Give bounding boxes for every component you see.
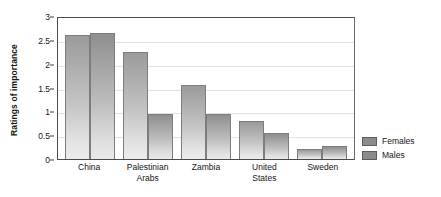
y-axis-tick-mark bbox=[50, 160, 54, 161]
y-axis-tick-mark bbox=[50, 17, 54, 18]
legend-item-females: Females bbox=[362, 136, 415, 146]
bar-males-china bbox=[90, 33, 115, 159]
x-axis-label-china: China bbox=[61, 162, 117, 194]
bar-groups bbox=[58, 18, 354, 159]
x-axis-label-line: China bbox=[61, 162, 117, 173]
y-axis-tick-mark bbox=[50, 88, 54, 89]
plot-area bbox=[57, 17, 355, 160]
bar-group bbox=[65, 18, 115, 159]
x-axis-category-labels: ChinaPalestinianArabsZambiaUnitedStatesS… bbox=[57, 162, 355, 194]
x-axis-label-line: Palestinian bbox=[120, 162, 176, 173]
bar-males-sweden bbox=[322, 146, 347, 159]
bar-males-zambia bbox=[206, 114, 231, 159]
legend-swatch-males bbox=[362, 151, 377, 160]
bar-females-palestinian-arabs bbox=[123, 52, 148, 159]
bar-females-china bbox=[65, 35, 90, 159]
legend-item-males: Males bbox=[362, 150, 415, 160]
legend-label: Males bbox=[382, 150, 405, 160]
y-axis-tick-mark bbox=[50, 40, 54, 41]
bar-females-united-states bbox=[239, 121, 264, 159]
x-axis-label-zambia: Zambia bbox=[178, 162, 234, 194]
x-axis-label-line: Arabs bbox=[120, 173, 176, 184]
bar-females-zambia bbox=[181, 85, 206, 159]
legend-swatch-females bbox=[362, 137, 377, 146]
y-axis-tick-label: 0.5 bbox=[38, 131, 50, 141]
y-axis-tick-labels: 00.511.522.53 bbox=[26, 17, 54, 160]
y-axis-title-text: Ratings of importance bbox=[9, 44, 19, 136]
y-axis-title: Ratings of importance bbox=[4, 20, 24, 160]
x-axis-label-united-states: UnitedStates bbox=[236, 162, 292, 194]
y-axis-tick-label: 2.5 bbox=[38, 36, 50, 46]
bar-males-united-states bbox=[264, 133, 289, 159]
x-axis-label-palestinian-arabs: PalestinianArabs bbox=[120, 162, 176, 194]
x-axis-label-line: Sweden bbox=[295, 162, 351, 173]
bar-group bbox=[297, 18, 347, 159]
bar-group bbox=[239, 18, 289, 159]
bar-group bbox=[123, 18, 173, 159]
x-axis-label-line: Zambia bbox=[178, 162, 234, 173]
y-axis-tick-label: 1.5 bbox=[38, 84, 50, 94]
bar-females-sweden bbox=[297, 149, 322, 159]
bar-males-palestinian-arabs bbox=[148, 114, 173, 159]
y-axis-tick-mark bbox=[50, 112, 54, 113]
bar-group bbox=[181, 18, 231, 159]
x-axis-label-line: United bbox=[236, 162, 292, 173]
x-axis-label-line: States bbox=[236, 173, 292, 184]
x-axis-label-sweden: Sweden bbox=[295, 162, 351, 194]
legend: FemalesMales bbox=[362, 136, 415, 160]
legend-label: Females bbox=[382, 136, 415, 146]
y-axis-tick-mark bbox=[50, 136, 54, 137]
bar-chart-figure: Ratings of importance 00.511.522.53 Chin… bbox=[0, 0, 441, 197]
y-axis-tick-mark bbox=[50, 64, 54, 65]
